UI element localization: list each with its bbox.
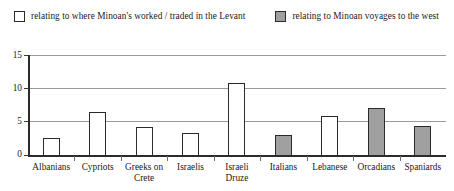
bar-slot-israelis (167, 40, 213, 156)
x-tickmark-7 (353, 156, 354, 161)
bar-slot-lebanese (307, 40, 353, 156)
legend-entry-west: relating to Minoan voyages to the west (275, 11, 439, 22)
bar-chart-plot-area: 0 5 10 15 (0, 40, 454, 191)
x-label-lebanese: Lebanese (307, 162, 353, 191)
bar-slot-italians (260, 40, 306, 156)
y-tick-label-0: 0 (0, 150, 22, 159)
bar-israeli-druze (228, 83, 245, 156)
bar-slot-orcadians (353, 40, 399, 156)
legend-label-west: relating to Minoan voyages to the west (292, 11, 439, 22)
bar-italians (275, 135, 292, 156)
x-tickmark-2 (121, 156, 122, 161)
x-label-cypriots: Cypriots (74, 162, 120, 191)
x-tickmark-1 (74, 156, 75, 161)
x-axis-labels: Albanians Cypriots Greeks on Crete Israe… (28, 162, 446, 191)
bar-slot-albanians (28, 40, 74, 156)
x-tickmark-8 (400, 156, 401, 161)
gray-square-icon (275, 11, 286, 22)
x-label-greeks-on-crete: Greeks on Crete (121, 162, 167, 191)
y-axis-labels: 0 5 10 15 (0, 40, 22, 191)
bar-slot-cypriots (74, 40, 120, 156)
legend-entry-levant: relating to where Minoan's worked / trad… (14, 11, 245, 22)
x-tickmark-6 (307, 156, 308, 161)
bar-greeks-on-crete (136, 127, 153, 156)
x-tickmark-4 (214, 156, 215, 161)
x-label-israelis: Israelis (167, 162, 213, 191)
y-tick-label-10: 10 (0, 84, 22, 93)
bar-albanians (43, 138, 60, 156)
white-square-icon (14, 11, 25, 22)
bar-orcadians (368, 108, 385, 156)
bar-slot-greeks-on-crete (121, 40, 167, 156)
x-label-orcadians: Orcadians (353, 162, 399, 191)
bar-slot-spaniards (400, 40, 446, 156)
bar-group (28, 40, 446, 156)
bar-lebanese (321, 116, 338, 156)
bar-slot-israeli-druze (214, 40, 260, 156)
x-label-spaniards: Spaniards (400, 162, 446, 191)
chart-legend: relating to where Minoan's worked / trad… (0, 6, 454, 26)
y-tick-label-15: 15 (0, 51, 22, 60)
legend-label-levant: relating to where Minoan's worked / trad… (31, 11, 245, 22)
y-tick-label-5: 5 (0, 117, 22, 126)
bar-israelis (182, 133, 199, 156)
x-label-italians: Italians (260, 162, 306, 191)
x-label-albanians: Albanians (28, 162, 74, 191)
bar-spaniards (414, 126, 431, 156)
x-tickmark-5 (260, 156, 261, 161)
y-axis-line (28, 55, 30, 156)
x-label-israeli-druze: Israeli Druze (214, 162, 260, 191)
bar-cypriots (89, 112, 106, 156)
x-tickmark-3 (167, 156, 168, 161)
